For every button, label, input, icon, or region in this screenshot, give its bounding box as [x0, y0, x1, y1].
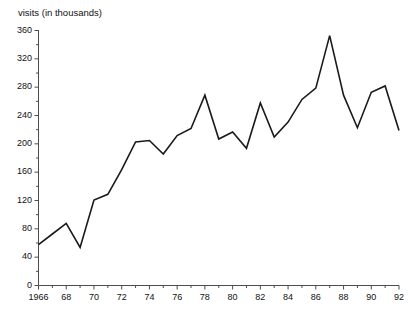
- chart-plot-area: [0, 0, 416, 315]
- y-tick-label: 160: [6, 167, 32, 176]
- x-tick-label: 70: [79, 293, 109, 302]
- x-tick-label: 68: [51, 293, 81, 302]
- y-tick-label: 360: [6, 26, 32, 35]
- y-tick-label: 280: [6, 82, 32, 91]
- chart-container: visits (in thousands) 040801201602002402…: [0, 0, 416, 315]
- x-tick-label: 84: [273, 293, 303, 302]
- y-tick-label: 240: [6, 111, 32, 120]
- x-tick-label: 82: [245, 293, 275, 302]
- x-tick-label: 72: [107, 293, 137, 302]
- y-tick-label: 80: [6, 224, 32, 233]
- x-tick-label: 90: [356, 293, 386, 302]
- axis-lines: [39, 30, 400, 286]
- y-tick-label: 120: [6, 196, 32, 205]
- x-tick-label: 86: [301, 293, 331, 302]
- data-series-line: [39, 36, 400, 248]
- y-tick-label: 200: [6, 139, 32, 148]
- x-tick-label: 80: [218, 293, 248, 302]
- x-tick-label: 74: [134, 293, 164, 302]
- x-tick-label: 78: [190, 293, 220, 302]
- y-tick-label: 0: [6, 281, 32, 290]
- y-tick-label: 40: [6, 252, 32, 261]
- x-tick-label: 92: [384, 293, 414, 302]
- x-tick-label: 88: [329, 293, 359, 302]
- y-axis-ticks: [35, 31, 39, 286]
- y-tick-label: 320: [6, 54, 32, 63]
- x-tick-label: 1966: [24, 293, 54, 302]
- x-tick-label: 76: [162, 293, 192, 302]
- x-axis-ticks: [39, 286, 400, 290]
